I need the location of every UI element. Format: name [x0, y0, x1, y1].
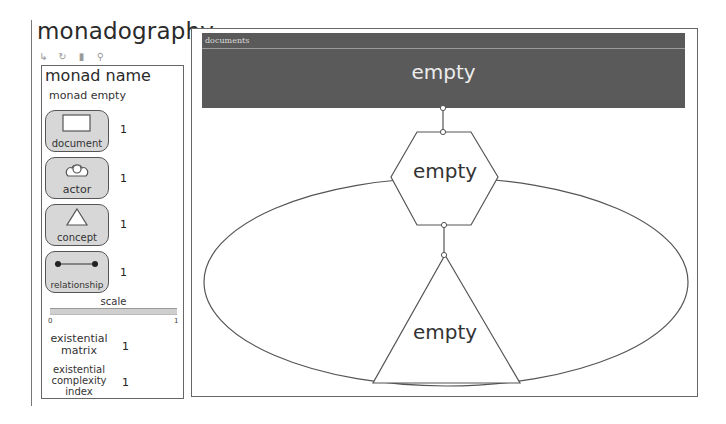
- relationship-icon: [46, 254, 108, 278]
- new-icon[interactable]: ↳: [38, 51, 49, 62]
- actor-count: 1: [120, 172, 127, 185]
- actor-button-label: actor: [46, 183, 108, 196]
- scale-label: scale: [42, 296, 185, 307]
- relationship-button[interactable]: relationship: [45, 251, 109, 293]
- relationship-count: 1: [120, 266, 127, 279]
- actor-button[interactable]: actor: [45, 157, 109, 199]
- redo-icon[interactable]: ↻: [57, 51, 68, 62]
- connector-handle[interactable]: [440, 105, 445, 110]
- hexagon-label: empty: [392, 159, 498, 183]
- concept-button[interactable]: concept: [45, 204, 109, 246]
- existential-matrix-label: existential matrix: [44, 333, 114, 357]
- existential-complexity-index-label: existential complexity index: [44, 364, 114, 397]
- existential-complexity-index-value: 1: [122, 376, 129, 389]
- trash-icon[interactable]: ▮: [76, 51, 87, 62]
- connector-handle[interactable]: [440, 129, 445, 134]
- concept-count: 1: [120, 218, 127, 231]
- scale-slider[interactable]: [50, 308, 177, 315]
- triangle-icon: [46, 207, 108, 231]
- monad-name-heading: monad name: [45, 66, 151, 85]
- document-count: 1: [120, 123, 127, 136]
- actor-icon: [46, 160, 108, 184]
- app-title: monadography: [37, 18, 214, 44]
- scale-max: 1: [174, 317, 178, 325]
- left-divider: [31, 20, 32, 406]
- canvas-panel[interactable]: documents empty empty empty: [191, 28, 698, 397]
- document-button-label: document: [46, 138, 108, 149]
- connector-handle[interactable]: [441, 252, 446, 257]
- triangle-label: empty: [392, 320, 498, 344]
- document-button[interactable]: document: [45, 110, 109, 152]
- rectangle-icon: [46, 113, 108, 137]
- connector-handle[interactable]: [441, 222, 446, 227]
- concept-triangle[interactable]: [373, 255, 520, 383]
- concept-button-label: concept: [46, 232, 108, 243]
- relationship-button-label: relationship: [46, 280, 108, 290]
- search-icon[interactable]: ⚲: [95, 51, 106, 62]
- scale-min: 0: [48, 317, 52, 325]
- existential-matrix-value: 1: [122, 340, 129, 353]
- sidebar: monad name monad empty document 1 actor …: [41, 65, 184, 399]
- toolbar: ↳ ↻ ▮ ⚲: [38, 51, 106, 63]
- monad-name-value: monad empty: [49, 89, 126, 102]
